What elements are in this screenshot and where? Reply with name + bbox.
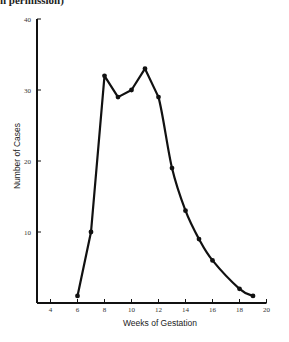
data-point [116, 95, 121, 100]
data-point [197, 237, 202, 242]
x-tick-label: 18 [236, 306, 244, 314]
data-point [237, 286, 242, 291]
data-point [89, 230, 94, 235]
x-tick-label: 6 [76, 306, 80, 314]
data-point [129, 88, 134, 93]
data-point [251, 294, 256, 299]
x-tick-label: 20 [263, 306, 271, 314]
y-tick-label: 40 [24, 16, 32, 24]
data-point [143, 66, 148, 71]
axes [37, 19, 267, 303]
x-tick-label: 8 [103, 306, 107, 314]
y-tick-label: 20 [24, 158, 32, 166]
x-tick-label: 16 [209, 306, 217, 314]
line-chart: 10203040 468101214161820 Weeks of Gestat… [0, 0, 289, 342]
y-tick-label: 30 [24, 87, 32, 95]
data-point [210, 258, 215, 263]
y-axis-ticks: 10203040 [24, 16, 41, 237]
data-point [75, 294, 80, 299]
x-tick-label: 4 [49, 306, 53, 314]
x-axis-ticks: 468101214161820 [49, 299, 271, 314]
x-tick-label: 12 [155, 306, 163, 314]
x-tick-label: 10 [128, 306, 136, 314]
x-tick-label: 14 [182, 306, 190, 314]
x-axis-title: Weeks of Gestation [123, 318, 197, 328]
y-tick-label: 10 [24, 229, 32, 237]
data-point [183, 208, 188, 213]
series-line [78, 69, 254, 296]
y-axis-title: Number of Cases [12, 123, 22, 189]
data-point [102, 73, 107, 78]
data-point [170, 166, 175, 171]
data-point [156, 95, 161, 100]
